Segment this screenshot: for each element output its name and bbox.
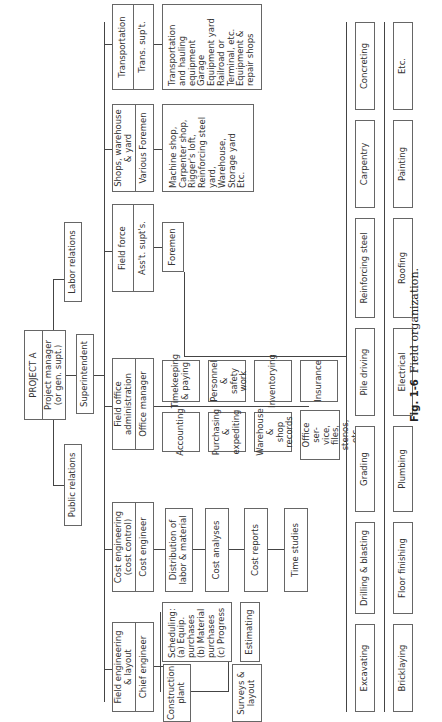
dept-transportation: Transportation Trans. sup't. — [112, 4, 154, 90]
fn-warehouse-records: Warehouse & shop records — [254, 412, 292, 452]
fn-office-service: Office ser- vice, files, stenos, etc. — [300, 410, 340, 460]
trades-bus-1 — [346, 22, 347, 712]
trade-drilling: Drilling & blasting — [355, 522, 375, 614]
superintendent-box: Superintendent — [76, 334, 94, 414]
dept-field-force: Field force Ass't. supt's. — [112, 204, 154, 292]
org-chart: PROJECT A Project manager (or gen. supt.… — [0, 0, 442, 722]
connector — [53, 280, 54, 330]
fn-construction-plant: Construction plant — [163, 664, 191, 722]
fn-insurance: Insurance — [300, 360, 338, 402]
fn-shops-list: Machine shop, Carpenter shop, Rigger's l… — [162, 104, 254, 192]
project-title: PROJECT A — [25, 331, 42, 419]
trade-bricklaying: Bricklaying — [393, 624, 413, 712]
trade-excavating: Excavating — [355, 624, 375, 712]
public-relations-box: Public relations — [64, 444, 82, 526]
figure-caption: Fig. 1-6Field organization. — [408, 268, 421, 422]
connector — [66, 375, 76, 376]
fn-time-studies: Time studies — [284, 508, 308, 592]
trade-carpentry: Carpentry — [355, 120, 375, 208]
dept-cost-engineering: Cost engineering (cost control) Cost eng… — [112, 502, 154, 592]
fn-foremen: Foremen — [162, 222, 184, 272]
fn-cost-analyses: Cost analyses — [205, 508, 229, 592]
trade-concreting: Concreting — [355, 22, 375, 110]
trade-reinforcing-steel: Reinforcing steel — [355, 218, 375, 318]
project-manager: Project manager (or gen. supt.) — [42, 331, 65, 419]
fn-inventorying: Inventorying — [254, 360, 292, 402]
fn-cost-reports: Cost reports — [244, 508, 268, 592]
labor-relations-box: Labor relations — [64, 222, 82, 302]
fn-transportation-list: Transportation and hauling equipment Gar… — [162, 4, 262, 90]
figure-label: Fig. 1-6 — [409, 379, 420, 422]
project-box: PROJECT A Project manager (or gen. supt.… — [24, 330, 66, 420]
dept-field-office: Field office administration Office manag… — [112, 358, 154, 450]
dept-shops-warehouse: Shops, warehouse & yard Various Foremen — [112, 104, 154, 192]
trade-etc: Etc. — [393, 22, 413, 110]
fn-distribution: Distribution of labor & material — [165, 508, 193, 592]
department-bus — [104, 22, 105, 702]
connector — [53, 420, 54, 486]
fn-accounting: Accounting — [162, 412, 200, 452]
trade-plumbing: Plumbing — [393, 426, 413, 512]
fn-purchasing: Purchasing & expediting — [208, 412, 246, 452]
dept-field-engineering: Field engineering & layout Chief enginee… — [112, 622, 154, 712]
trade-pile-driving: Pile driving — [355, 328, 375, 416]
trade-grading: Grading — [355, 426, 375, 512]
fn-timekeeping: Timekeeping & paying — [162, 360, 200, 402]
trade-floor-finishing: Floor finishing — [393, 522, 413, 614]
fn-surveys-layout: Surveys & layout — [232, 664, 262, 722]
fn-scheduling: Scheduling: (a) Equip. purchases (b) Mat… — [162, 602, 232, 662]
fn-personnel: Personnel & safety work — [208, 360, 246, 402]
trades-bus-2 — [384, 22, 385, 712]
trade-painting: Painting — [393, 120, 413, 208]
connector — [94, 375, 104, 376]
fn-estimating: Estimating — [240, 602, 260, 662]
figure-title: Field organization. — [408, 268, 421, 373]
